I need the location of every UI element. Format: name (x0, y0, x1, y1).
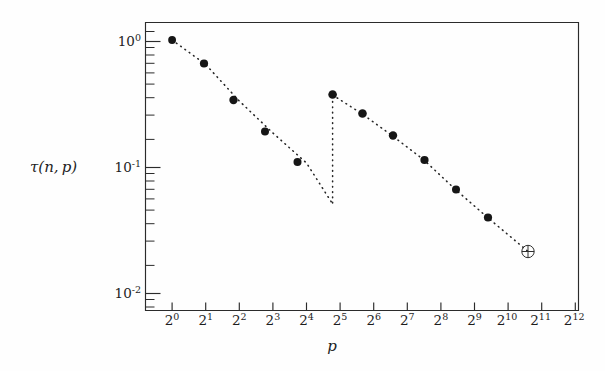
axis-titles: p τ(n,p) (30, 158, 337, 355)
y-tick-label-1e-1: 10-1 (115, 158, 141, 176)
x-axis-ticks (172, 303, 575, 311)
x-tick-exponent: 3 (274, 311, 280, 322)
data-point (294, 158, 302, 166)
series-branch-1-markers (168, 36, 301, 166)
dotted-trend-right (333, 95, 528, 251)
y-axis-title-close: ) (70, 158, 77, 176)
figure-container: 100 10-1 10-2 20 21 22 23 24 (0, 0, 605, 371)
data-point (200, 59, 208, 67)
x-tick-label-2-2: 22 (232, 311, 247, 329)
y-tick-label-1e0: 100 (118, 32, 141, 50)
data-point (358, 109, 367, 118)
x-tick-exponent: 0 (173, 311, 179, 322)
log-log-scatter-plot: 100 10-1 10-2 20 21 22 23 24 (0, 0, 605, 371)
x-tick-exponent: 10 (505, 311, 517, 322)
x-tick-base: 2 (366, 312, 375, 328)
x-tick-base: 2 (530, 312, 539, 328)
x-tick-base: 2 (165, 312, 174, 328)
y-tick-exponent: -1 (132, 158, 141, 169)
y-tick-exponent: 0 (135, 32, 141, 43)
series-branch-2-markers (328, 90, 492, 221)
series-branch-1-line (172, 40, 332, 203)
y-tick-label-1e-2: 10-2 (115, 284, 141, 302)
x-tick-label-2-6: 26 (366, 311, 381, 329)
x-tick-base: 2 (400, 312, 409, 328)
data-point (168, 36, 176, 44)
y-axis-title: τ(n,p) (30, 158, 77, 176)
y-tick-base: 10 (115, 285, 132, 301)
x-tick-label-2-0: 20 (165, 311, 180, 329)
y-tick-labels: 100 10-1 10-2 (115, 32, 141, 302)
y-axis-title-p: p (62, 158, 72, 176)
x-tick-exponent: 5 (341, 311, 347, 322)
x-tick-base: 2 (467, 312, 476, 328)
axes-frame-rect (146, 23, 579, 311)
data-point (420, 156, 428, 164)
x-tick-exponent: 6 (375, 311, 381, 322)
x-tick-label-2-1: 21 (198, 311, 213, 329)
x-tick-label-2-11: 211 (530, 311, 551, 329)
x-tick-label-2-7: 27 (400, 311, 415, 329)
y-tick-base: 10 (115, 159, 132, 175)
x-tick-exponent: 9 (476, 311, 482, 322)
series-branch-2-line (333, 95, 528, 251)
data-point (484, 213, 492, 221)
y-axis-title-n: n (44, 158, 54, 176)
y-axis-ticks (146, 32, 161, 308)
x-tick-exponent: 7 (409, 311, 415, 322)
data-point (261, 128, 269, 136)
x-tick-base: 2 (299, 312, 308, 328)
circled-plus-marker (522, 245, 534, 257)
x-tick-exponent: 11 (539, 311, 551, 322)
x-tick-base: 2 (198, 312, 207, 328)
y-tick-exponent: -2 (132, 284, 141, 295)
x-tick-base: 2 (232, 312, 241, 328)
x-tick-labels: 20 21 22 23 24 25 26 27 (165, 311, 585, 329)
x-tick-label-2-4: 24 (299, 311, 314, 329)
data-point (452, 186, 460, 194)
x-tick-label-2-10: 210 (497, 311, 518, 329)
data-point (328, 90, 337, 99)
x-tick-label-2-5: 25 (333, 311, 348, 329)
x-tick-label-2-8: 28 (434, 311, 449, 329)
plot-frame (146, 23, 579, 311)
data-point (229, 96, 237, 104)
x-tick-exponent: 1 (207, 311, 213, 322)
x-tick-base: 2 (497, 312, 506, 328)
x-tick-exponent: 4 (308, 311, 314, 322)
x-tick-base: 2 (434, 312, 443, 328)
dotted-trend-left (172, 40, 332, 203)
x-tick-exponent: 12 (572, 311, 584, 322)
x-tick-label-2-12: 212 (564, 311, 585, 329)
x-tick-base: 2 (266, 312, 275, 328)
x-axis-title: p (327, 337, 337, 355)
x-tick-exponent: 8 (442, 311, 448, 322)
x-tick-base: 2 (564, 312, 573, 328)
x-tick-label-2-9: 29 (467, 311, 482, 329)
y-tick-base: 10 (118, 33, 135, 49)
data-point (389, 131, 397, 139)
x-tick-label-2-3: 23 (266, 311, 281, 329)
x-tick-base: 2 (333, 312, 342, 328)
y-axis-title-comma: , (54, 158, 59, 176)
x-tick-exponent: 2 (241, 311, 247, 322)
